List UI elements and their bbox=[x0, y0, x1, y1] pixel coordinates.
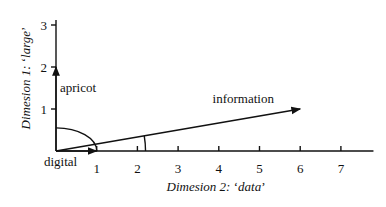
angle-arcs bbox=[56, 128, 146, 151]
axes bbox=[56, 20, 373, 151]
y-tick-label: 3 bbox=[41, 18, 48, 33]
y-axis-title: Dimesion 1: ‘large’ bbox=[18, 27, 33, 131]
ticks: 1234567123 bbox=[41, 18, 345, 176]
x-tick-label: 1 bbox=[93, 161, 100, 176]
x-tick-label: 7 bbox=[338, 161, 345, 176]
y-tick-label: 1 bbox=[41, 102, 48, 117]
x-axis-title: Dimesion 2: ‘data’ bbox=[166, 179, 266, 194]
vector-space-diagram: 1234567123 apricotdigitalinformationDime… bbox=[0, 0, 386, 207]
x-tick-label: 4 bbox=[216, 161, 223, 176]
x-tick-label: 2 bbox=[134, 161, 141, 176]
vector-information bbox=[56, 109, 300, 151]
x-tick-label: 6 bbox=[297, 161, 304, 176]
y-tick-label: 2 bbox=[41, 60, 48, 75]
vector-label-information: information bbox=[213, 91, 275, 106]
x-tick-label: 5 bbox=[256, 161, 263, 176]
vector-label-digital: digital bbox=[44, 154, 78, 169]
x-tick-label: 3 bbox=[175, 161, 182, 176]
vector-label-apricot: apricot bbox=[60, 80, 96, 95]
angle-arc-information-digital bbox=[144, 136, 145, 151]
